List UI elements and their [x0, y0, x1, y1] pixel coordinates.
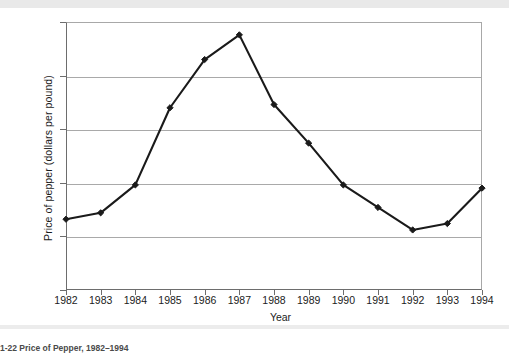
y-tick-mark-1.50	[60, 129, 66, 130]
x-tick-mark-1991	[378, 290, 379, 295]
x-tick-mark-1992	[413, 290, 414, 295]
x-axis-title: Year	[270, 311, 291, 323]
x-tick-mark-1982	[66, 290, 67, 295]
y-tick-mark-0.50	[60, 236, 66, 237]
x-tick-mark-1993	[447, 290, 448, 295]
page-canvas: Price of pepper (dollars per pound) 00.5…	[0, 0, 509, 353]
figure-caption-text: 1-22 Price of Pepper, 1982–1994	[0, 343, 129, 353]
x-tick-mark-1986	[205, 290, 206, 295]
x-tick-mark-1983	[101, 290, 102, 295]
y-tick-mark-2.00	[60, 76, 66, 77]
plot-area	[66, 22, 482, 290]
x-tick-mark-1989	[309, 290, 310, 295]
x-tick-mark-1987	[239, 290, 240, 295]
x-tick-mark-1990	[343, 290, 344, 295]
gridline-1.50	[67, 130, 481, 131]
y-tick-mark-1.00	[60, 183, 66, 184]
x-tick-label-1994: 1994	[459, 294, 505, 306]
x-tick-mark-1985	[170, 290, 171, 295]
y-tick-mark-2.50	[60, 22, 66, 23]
figure-caption: 1-22 Price of Pepper, 1982–1994	[0, 343, 300, 353]
y-axis-title: Price of pepper (dollars per pound)	[42, 28, 54, 288]
x-axis-title-wrap: Year	[0, 311, 509, 323]
line-chart-figure: Price of pepper (dollars per pound) 00.5…	[0, 0, 509, 330]
gridline-2.00	[67, 77, 481, 78]
x-tick-mark-1984	[135, 290, 136, 295]
gridline-0.50	[67, 237, 481, 238]
x-tick-mark-1994	[482, 290, 483, 295]
x-tick-mark-1988	[274, 290, 275, 295]
gridline-1.00	[67, 184, 481, 185]
